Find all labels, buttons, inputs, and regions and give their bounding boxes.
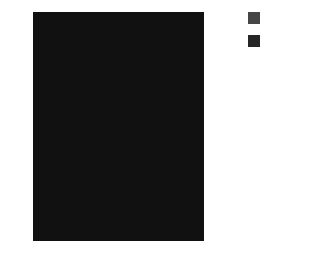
swatch-b [248, 35, 260, 47]
swatch-a [248, 12, 260, 24]
key-item-b [248, 35, 266, 47]
chart-grid [33, 12, 204, 241]
key-item-a [248, 12, 266, 24]
